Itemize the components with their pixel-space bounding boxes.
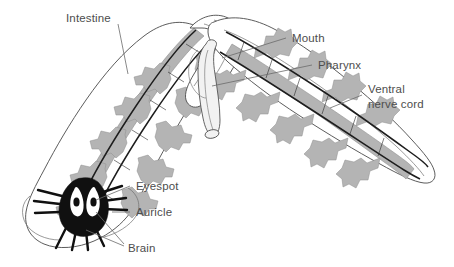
intestine-branch (304, 138, 348, 168)
label-ventral-nerve-cord-line2: nerve cord (368, 98, 424, 110)
label-pharynx: Pharynx (318, 59, 361, 71)
label-auricle: Auricle (136, 206, 172, 218)
label-brain: Brain (128, 242, 156, 254)
anatomy-illustration: Intestine Mouth Pharynx Ventral nerve co… (0, 0, 454, 267)
eyespot-pupil-left (73, 197, 79, 206)
intestine-branch (336, 158, 380, 188)
label-mouth: Mouth (292, 32, 325, 44)
label-ventral-nerve-cord-line1: Ventral (368, 83, 405, 95)
planarian-anatomy-figure: Intestine Mouth Pharynx Ventral nerve co… (0, 0, 454, 267)
intestine-branch (236, 92, 280, 122)
intestine-branch (270, 114, 314, 144)
label-intestine: Intestine (66, 12, 111, 24)
brain-nerve (35, 212, 60, 213)
label-eyespot: Eyespot (136, 180, 179, 192)
eyespot-pupil-right (90, 197, 96, 206)
